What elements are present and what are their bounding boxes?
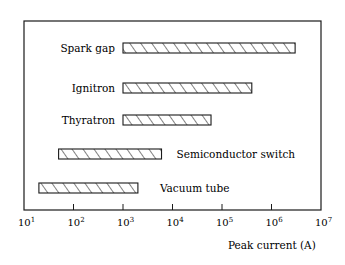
bar-thyratron: Thyratron: [62, 114, 211, 126]
bar-spark-gap: Spark gap: [60, 42, 295, 54]
x-axis-tick-labels: 101102103104105106107: [18, 216, 332, 228]
bars: Spark gapIgnitronThyratronSemiconductor …: [39, 42, 295, 194]
bar-vacuum-tube: Vacuum tube: [39, 182, 230, 194]
chart: 101102103104105106107 Spark gapIgnitronT…: [0, 0, 345, 265]
bar-ignitron: Ignitron: [72, 82, 252, 94]
bar-semiconductor-switch: Semiconductor switch: [59, 148, 296, 160]
bar-label: Thyratron: [62, 114, 116, 126]
x-tick-label: 105: [216, 216, 233, 228]
bar-label: Ignitron: [72, 82, 116, 94]
x-axis-label: Peak current (A): [228, 239, 316, 251]
bar-label: Vacuum tube: [159, 182, 230, 194]
bar-label: Semiconductor switch: [177, 148, 296, 160]
x-tick-label: 104: [167, 216, 185, 228]
x-tick-label: 103: [117, 216, 134, 228]
bar-label: Spark gap: [60, 42, 115, 54]
x-tick-label: 101: [18, 216, 35, 228]
x-tick-label: 102: [68, 216, 85, 228]
x-tick-label: 107: [315, 216, 332, 228]
x-tick-label: 106: [266, 216, 284, 228]
x-axis-ticks: [74, 204, 272, 210]
